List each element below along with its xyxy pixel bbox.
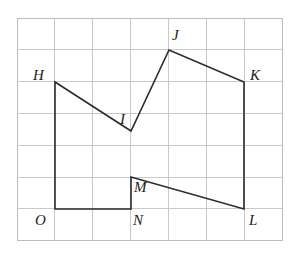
geometry-figure: HIJKLMNO bbox=[0, 0, 301, 267]
vertex-label-j: J bbox=[172, 28, 179, 43]
polygon-shape bbox=[55, 50, 244, 209]
vertex-label-m: M bbox=[134, 180, 147, 195]
polygon-outline bbox=[55, 50, 244, 209]
grid-layer bbox=[17, 18, 282, 241]
vertex-label-i: I bbox=[120, 112, 125, 127]
vertex-label-h: H bbox=[33, 68, 44, 83]
vertex-label-k: K bbox=[250, 68, 260, 83]
vertex-label-o: O bbox=[35, 213, 46, 228]
vertex-label-n: N bbox=[133, 213, 143, 228]
vertex-label-l: L bbox=[249, 213, 257, 228]
